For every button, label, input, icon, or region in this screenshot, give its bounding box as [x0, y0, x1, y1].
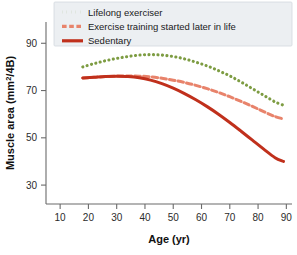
x-tick-label: 30	[111, 212, 123, 223]
line-chart: 30507090 102030405060708090 Age (yr) Mus…	[0, 0, 297, 255]
y-axis-title: Muscle area (mm2/4B)	[4, 56, 17, 171]
legend-label-1: Lifelong exerciser	[88, 7, 162, 18]
series-line-lifelong-exerciser	[83, 55, 284, 106]
x-tick-label: 60	[196, 212, 208, 223]
x-tick-label: 10	[55, 212, 67, 223]
chart-series-group	[83, 55, 284, 162]
x-tick-label: 20	[83, 212, 95, 223]
legend-label-3: Sedentary	[88, 35, 132, 46]
y-tick-label: 90	[26, 38, 38, 49]
x-axis-title: Age (yr)	[148, 233, 190, 245]
chart-figure: 30507090 102030405060708090 Age (yr) Mus…	[0, 0, 297, 255]
y-axis-title-part1: Muscle area (mm	[4, 81, 16, 170]
y-tick-label: 50	[26, 132, 38, 143]
y-tick-label: 70	[26, 85, 38, 96]
x-tick-label: 40	[139, 212, 151, 223]
chart-axes	[46, 22, 292, 204]
legend-label-2: Exercise training started later in life	[88, 21, 236, 32]
x-tick-label: 90	[281, 212, 293, 223]
y-axis-ticks: 30507090	[26, 38, 46, 191]
x-tick-label: 70	[224, 212, 236, 223]
x-axis-ticks: 102030405060708090	[55, 204, 293, 223]
x-tick-label: 80	[253, 212, 265, 223]
x-tick-label: 50	[168, 212, 180, 223]
chart-legend: Lifelong exerciserExercise training star…	[54, 2, 292, 46]
series-line-exercise-training-started-later-in-life	[83, 76, 284, 119]
y-tick-label: 30	[26, 180, 38, 191]
